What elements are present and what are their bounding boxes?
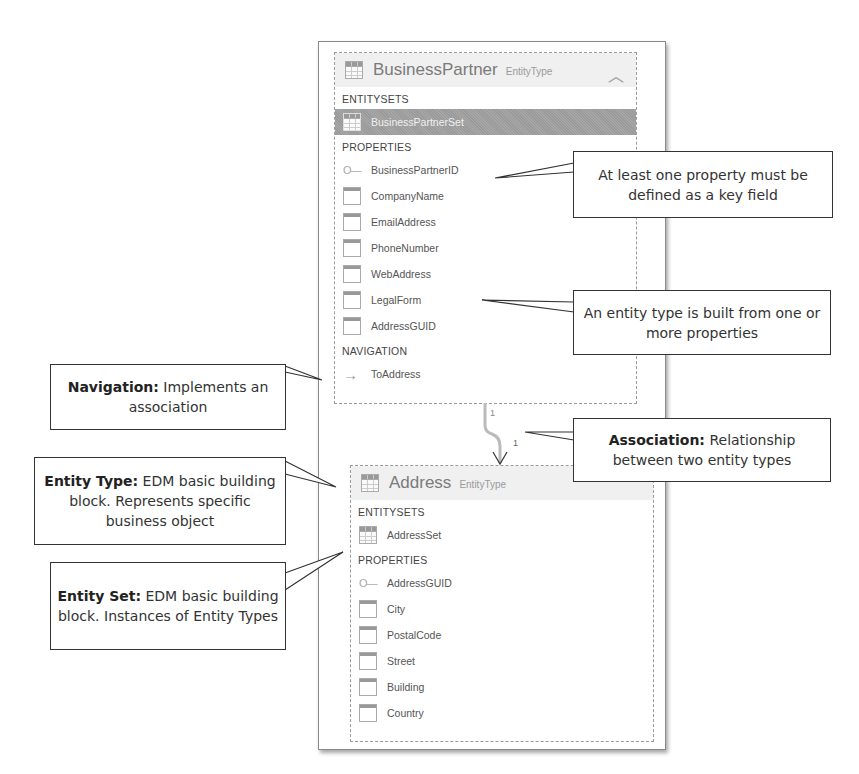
callout-navigation: Navigation: Implements an association xyxy=(50,364,286,430)
callout-entity-type: Entity Type: EDM basic building block. R… xyxy=(34,457,286,545)
callout-association: Association: Relationship between two en… xyxy=(573,418,831,482)
source-multiplicity: 1 xyxy=(490,408,495,418)
callout-entity-set: Entity Set: EDM basic building block. In… xyxy=(50,562,286,650)
callout-properties: An entity type is built from one or more… xyxy=(573,290,831,355)
callout-key-field: At least one property must be defined as… xyxy=(573,151,833,218)
target-multiplicity: 1 xyxy=(513,438,518,448)
